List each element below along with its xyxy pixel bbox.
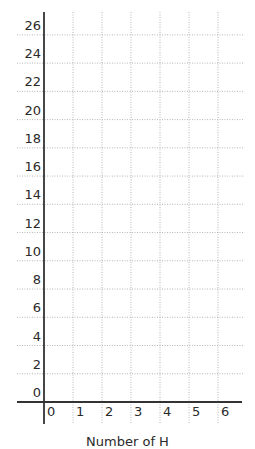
y-tick-label: 18 — [11, 131, 41, 146]
x-tick-label: 5 — [192, 404, 200, 419]
y-tick-label: 24 — [11, 46, 41, 61]
y-tick-label: 14 — [11, 187, 41, 202]
y-tick-label: 6 — [11, 300, 41, 315]
y-tick-label: 8 — [11, 272, 41, 287]
y-tick-label: 10 — [11, 244, 41, 259]
x-axis-label: Number of H — [0, 434, 255, 449]
y-tick-label: 4 — [11, 329, 41, 344]
x-tick-label: 2 — [105, 404, 113, 419]
y-tick-label: 22 — [11, 74, 41, 89]
x-tick-label: 3 — [134, 404, 142, 419]
x-tick-label: 1 — [76, 404, 84, 419]
y-tick-label: 0 — [11, 385, 41, 400]
x-tick-label: 0 — [47, 404, 55, 419]
y-tick-label: 12 — [11, 216, 41, 231]
y-tick-label: 16 — [11, 159, 41, 174]
y-tick-label: 26 — [11, 18, 41, 33]
y-tick-label: 20 — [11, 103, 41, 118]
x-tick-label: 4 — [163, 404, 171, 419]
x-tick-label: 6 — [221, 404, 229, 419]
y-tick-label: 2 — [11, 357, 41, 372]
